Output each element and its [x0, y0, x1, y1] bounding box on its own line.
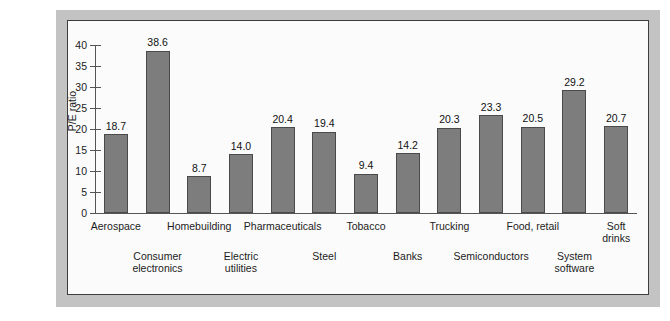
bar-value-label: 29.2 — [564, 77, 584, 88]
category-label-line: software — [526, 262, 622, 274]
x-axis-category-label: Pharmaceuticals — [235, 220, 331, 232]
bar-value-label: 14.2 — [397, 140, 417, 151]
bar-group[interactable]: 23.3 — [479, 21, 503, 214]
bar[interactable] — [604, 126, 628, 213]
x-axis-category-label: Aerospace — [68, 220, 164, 232]
y-axis-tick-label: 5 — [65, 187, 87, 198]
category-label-line: Trucking — [401, 220, 497, 232]
bar-group[interactable]: 29.2 — [562, 21, 586, 214]
bar-group[interactable]: 19.4 — [312, 21, 336, 214]
x-axis-category-labels: AerospaceConsumerelectronicsHomebuilding… — [95, 217, 637, 292]
bar[interactable] — [271, 127, 295, 213]
bar-value-label: 23.3 — [481, 102, 501, 113]
chart-panel: 4035302520151050 P/E ratio 18.738.68.714… — [67, 20, 649, 295]
bar-value-label: 8.7 — [192, 163, 207, 174]
bar[interactable] — [312, 132, 336, 213]
bar-group[interactable]: 20.7 — [604, 21, 628, 214]
bar-value-label: 14.0 — [231, 141, 251, 152]
category-label-line: Food, retail — [485, 220, 581, 232]
bar-group[interactable]: 9.4 — [354, 21, 378, 214]
bar[interactable] — [354, 174, 378, 213]
category-label-line: electronics — [110, 262, 206, 274]
category-label-line: Semiconductors — [443, 250, 539, 262]
category-label-line: Pharmaceuticals — [235, 220, 331, 232]
category-label-line: Steel — [276, 250, 372, 262]
y-axis-title: P/E ratio — [66, 66, 78, 156]
bar-group[interactable]: 14.2 — [396, 21, 420, 214]
x-axis-category-label: Trucking — [401, 220, 497, 232]
category-label-line: System — [526, 250, 622, 262]
x-axis-category-label: Consumerelectronics — [110, 250, 206, 275]
x-axis-category-label: Steel — [276, 250, 372, 262]
category-label-line: Soft — [568, 220, 664, 232]
category-label-line: utilities — [193, 262, 289, 274]
bar[interactable] — [229, 154, 253, 213]
bar-value-label: 19.4 — [314, 118, 334, 129]
y-axis-tick-label: 0 — [65, 208, 87, 219]
bar-value-label: 38.6 — [147, 37, 167, 48]
bar[interactable] — [104, 134, 128, 213]
figure-root: 4035302520151050 P/E ratio 18.738.68.714… — [0, 0, 670, 321]
bar-group[interactable]: 18.7 — [104, 21, 128, 214]
bar-group[interactable]: 20.3 — [437, 21, 461, 214]
bar[interactable] — [437, 128, 461, 213]
bar[interactable] — [479, 115, 503, 213]
bar-group[interactable]: 20.4 — [271, 21, 295, 214]
x-axis-category-label: Banks — [360, 250, 456, 262]
bar[interactable] — [396, 153, 420, 213]
bar-value-label: 20.7 — [606, 113, 626, 124]
category-label-line: Banks — [360, 250, 456, 262]
x-axis-category-label: Homebuilding — [151, 220, 247, 232]
bar-group[interactable]: 14.0 — [229, 21, 253, 214]
x-axis-category-label: Softdrinks — [568, 220, 664, 245]
x-axis-category-label: Semiconductors — [443, 250, 539, 262]
plot-area: 4035302520151050 P/E ratio 18.738.68.714… — [68, 21, 650, 296]
x-axis-category-label: Systemsoftware — [526, 250, 622, 275]
bar-group[interactable]: 8.7 — [187, 21, 211, 214]
category-label-line: Aerospace — [68, 220, 164, 232]
bar-group[interactable]: 20.5 — [521, 21, 545, 214]
bar-value-label: 20.3 — [439, 114, 459, 125]
x-axis-category-label: Food, retail — [485, 220, 581, 232]
bar[interactable] — [146, 51, 170, 213]
bar[interactable] — [187, 176, 211, 213]
bar[interactable] — [562, 90, 586, 213]
y-axis-tick-label: 10 — [65, 166, 87, 177]
y-axis-tick-label: 40 — [65, 40, 87, 51]
bars-layer: 18.738.68.714.020.419.49.414.220.323.320… — [95, 21, 637, 214]
category-label-line: Homebuilding — [151, 220, 247, 232]
category-label-line: drinks — [568, 232, 664, 244]
x-axis-category-label: Tobacco — [318, 220, 414, 232]
x-axis-category-label: Electricutilities — [193, 250, 289, 275]
bar-value-label: 9.4 — [359, 160, 374, 171]
bar-value-label: 20.4 — [272, 114, 292, 125]
bar-value-label: 20.5 — [523, 113, 543, 124]
bar[interactable] — [521, 127, 545, 213]
category-label-line: Electric — [193, 250, 289, 262]
category-label-line: Consumer — [110, 250, 206, 262]
y-axis-tick-labels: 4035302520151050 — [65, 21, 87, 296]
bar-value-label: 18.7 — [106, 121, 126, 132]
bar-group[interactable]: 38.6 — [146, 21, 170, 214]
category-label-line: Tobacco — [318, 220, 414, 232]
